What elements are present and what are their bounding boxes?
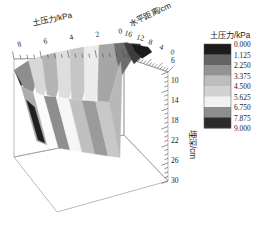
contour-surface bbox=[14, 43, 152, 158]
depth-tick-mark bbox=[164, 136, 168, 137]
legend-band bbox=[204, 76, 231, 87]
legend: 土压力/kPa 0.0001.1252.2503.3754.5005.6256.… bbox=[204, 30, 251, 133]
distance-tick-mark bbox=[152, 63, 155, 66]
depth-tick-mark bbox=[164, 117, 168, 118]
distance-tick-2: 8 bbox=[147, 37, 153, 47]
legend-band bbox=[204, 107, 231, 118]
depth-tick-mark bbox=[164, 99, 168, 100]
plot-svg: 8 6 4 2 0 土压力/kPa 16 12 8 4 0 水平距离/cm 6 … bbox=[0, 0, 277, 230]
distance-tick-mark bbox=[168, 67, 174, 73]
legend-band bbox=[204, 97, 231, 108]
distance-tick-0: 16 bbox=[123, 28, 133, 39]
depth-tick-3: 18 bbox=[171, 116, 179, 125]
pressure-tick-4: 0 bbox=[117, 26, 123, 36]
distance-tick-1: 12 bbox=[135, 32, 145, 43]
depth-tick-4: 22 bbox=[171, 136, 179, 145]
pressure-tick-0: 8 bbox=[16, 39, 22, 49]
depth-tick-mark bbox=[162, 90, 169, 93]
distance-tick-3: 4 bbox=[158, 42, 164, 52]
depth-tick-mark bbox=[164, 172, 168, 173]
distance-tick-mark bbox=[165, 68, 168, 71]
depth-axis-ticks bbox=[162, 72, 169, 184]
legend-value-label: 6.750 bbox=[234, 103, 251, 112]
distance-axis-label: 水平距离/cm bbox=[127, 0, 172, 29]
pressure-tick-mark bbox=[34, 55, 35, 59]
figure-root: 8 6 4 2 0 土压力/kPa 16 12 8 4 0 水平距离/cm 6 … bbox=[0, 0, 277, 230]
legend-labels: 0.0001.1252.2503.3754.5005.6256.7507.875… bbox=[234, 40, 251, 133]
depth-tick-0: 6 bbox=[171, 56, 175, 65]
depth-tick-mark bbox=[164, 176, 168, 177]
pressure-tick-mark bbox=[20, 55, 21, 59]
pressure-tick-3: 2 bbox=[94, 29, 100, 39]
depth-axis-label: 埋深/cm bbox=[188, 130, 198, 159]
legend-band bbox=[204, 86, 231, 97]
depth-tick-mark bbox=[164, 131, 168, 132]
depth-tick-mark bbox=[164, 154, 168, 155]
pressure-tick-2: 4 bbox=[68, 32, 74, 42]
depth-tick-mark bbox=[162, 145, 169, 148]
depth-tick-mark bbox=[164, 81, 168, 82]
depth-tick-6: 30 bbox=[171, 176, 179, 185]
depth-tick-mark bbox=[162, 108, 169, 111]
legend-value-label: 9.000 bbox=[234, 124, 251, 133]
right-wall-panel bbox=[124, 57, 168, 181]
depth-tick-mark bbox=[164, 122, 168, 123]
pressure-tick-1: 6 bbox=[42, 36, 48, 46]
depth-tick-mark bbox=[162, 127, 169, 130]
legend-value-label: 1.125 bbox=[234, 51, 251, 60]
legend-title: 土压力/kPa bbox=[210, 30, 251, 40]
depth-tick-5: 26 bbox=[171, 156, 179, 165]
legend-value-label: 7.875 bbox=[234, 114, 251, 123]
depth-tick-mark bbox=[162, 72, 169, 75]
legend-value-label: 2.250 bbox=[234, 61, 251, 70]
distance-tick-mark bbox=[163, 67, 166, 70]
distance-tick-mark bbox=[141, 60, 144, 63]
distance-tick-mark bbox=[149, 62, 152, 65]
legend-value-label: 4.500 bbox=[234, 82, 251, 91]
legend-value-label: 5.625 bbox=[234, 93, 251, 102]
legend-colorbar bbox=[204, 44, 231, 128]
depth-tick-mark bbox=[164, 149, 168, 150]
legend-value-label: 3.375 bbox=[234, 72, 251, 81]
distance-tick-mark bbox=[154, 64, 157, 67]
pressure-tick-mark bbox=[13, 52, 15, 60]
depth-tick-mark bbox=[164, 95, 168, 96]
legend-band bbox=[204, 44, 231, 55]
pressure-axis: 8 6 4 2 0 土压力/kPa bbox=[16, 10, 123, 49]
depth-tick-mark bbox=[164, 77, 168, 78]
depth-tick-mark bbox=[164, 86, 168, 87]
legend-value-label: 0.000 bbox=[234, 40, 251, 49]
legend-band bbox=[204, 55, 231, 66]
pressure-axis-label: 土压力/kPa bbox=[31, 10, 73, 28]
depth-axis: 6 10 14 18 22 26 30 埋深/cm bbox=[171, 56, 198, 185]
depth-tick-mark bbox=[164, 167, 168, 168]
depth-tick-mark bbox=[164, 158, 168, 159]
depth-tick-mark bbox=[164, 113, 168, 114]
legend-band bbox=[204, 65, 231, 76]
legend-band bbox=[204, 118, 231, 129]
depth-tick-1: 10 bbox=[171, 76, 179, 85]
distance-tick-mark bbox=[160, 66, 163, 69]
depth-tick-mark bbox=[164, 140, 168, 141]
pressure-tick-mark bbox=[27, 55, 28, 59]
depth-tick-mark bbox=[162, 163, 169, 166]
depth-tick-2: 14 bbox=[171, 96, 179, 105]
depth-tick-mark bbox=[164, 104, 168, 105]
distance-tick-mark bbox=[143, 61, 146, 64]
